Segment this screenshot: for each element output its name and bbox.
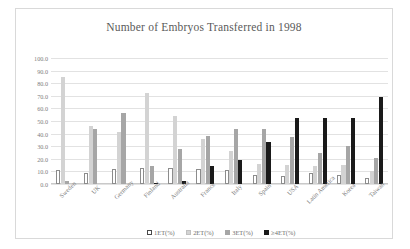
bar-group (248, 58, 276, 184)
bar[interactable] (225, 170, 229, 184)
bar[interactable] (173, 116, 177, 184)
bar[interactable] (229, 151, 233, 184)
bar[interactable] (117, 132, 121, 184)
bar-group (360, 58, 388, 184)
bar[interactable] (323, 118, 327, 184)
legend-swatch (225, 230, 230, 235)
bar-groups (51, 58, 388, 184)
x-label-cell: Sweden (51, 185, 79, 229)
y-axis-tick-label: 10.0 (37, 168, 48, 175)
x-label-cell: UK (79, 185, 107, 229)
bar[interactable] (295, 118, 299, 184)
y-axis-tick-label: 100.0 (34, 55, 48, 62)
bar[interactable] (168, 168, 172, 184)
bar[interactable] (309, 173, 313, 184)
bar[interactable] (266, 142, 270, 184)
chart-legend: 1ET(%)2ET(%)3ET(%)≥4ET(%) (16, 229, 410, 236)
bar-group (304, 58, 332, 184)
bar-group (332, 58, 360, 184)
bar[interactable] (253, 175, 257, 184)
x-label-cell: Italy (219, 185, 247, 229)
x-label-cell: Taiwan (360, 185, 388, 229)
legend-item[interactable]: 1ET(%) (147, 229, 175, 236)
bar[interactable] (93, 129, 97, 184)
legend-item[interactable]: ≥4ET(%) (264, 229, 296, 236)
legend-item[interactable]: 2ET(%) (186, 229, 214, 236)
bar[interactable] (56, 170, 60, 184)
bar-group (51, 58, 79, 184)
x-label-cell: Australia (163, 185, 191, 229)
legend-item[interactable]: 3ET(%) (225, 229, 253, 236)
y-axis-tick-label: 40.0 (37, 130, 48, 137)
x-label-cell: Korea (332, 185, 360, 229)
bar-group (135, 58, 163, 184)
y-axis-tick-label: 90.0 (37, 67, 48, 74)
bar[interactable] (140, 168, 144, 184)
y-axis-tick-label: 60.0 (37, 105, 48, 112)
bar[interactable] (89, 126, 93, 184)
bar[interactable] (337, 175, 341, 184)
bar[interactable] (145, 93, 149, 184)
legend-swatch (147, 230, 152, 235)
bar[interactable] (121, 113, 125, 184)
bar-group (163, 58, 191, 184)
bar[interactable] (285, 165, 289, 184)
bar-group (191, 58, 219, 184)
bar[interactable] (61, 77, 65, 184)
x-label-cell: France (191, 185, 219, 229)
bar[interactable] (313, 166, 317, 184)
bar[interactable] (178, 149, 182, 184)
bar[interactable] (351, 118, 355, 184)
legend-label: 3ET(%) (232, 229, 253, 236)
bar[interactable] (374, 158, 378, 184)
bar-group (276, 58, 304, 184)
bar[interactable] (206, 136, 210, 184)
bar[interactable] (318, 153, 322, 185)
x-axis-label: USA (285, 182, 299, 196)
bar[interactable] (257, 164, 261, 184)
y-axis-tick-label: 50.0 (37, 118, 48, 125)
bar[interactable] (346, 146, 350, 184)
chart-title: Number of Embryos Transferred in 1998 (16, 21, 392, 33)
legend-label: 2ET(%) (193, 229, 214, 236)
bar[interactable] (234, 129, 238, 184)
y-axis-tick-label: 70.0 (37, 92, 48, 99)
bar-group (107, 58, 135, 184)
bar[interactable] (262, 129, 266, 184)
y-axis-tick-label: 80.0 (37, 80, 48, 87)
x-label-cell: USA (276, 185, 304, 229)
x-axis-label: Italy (229, 183, 242, 196)
y-axis-tick-label: 20.0 (37, 155, 48, 162)
bar[interactable] (84, 173, 88, 184)
y-axis-tick-label: 0.0 (40, 181, 48, 188)
legend-label: 1ET(%) (154, 229, 175, 236)
bar[interactable] (341, 165, 345, 184)
bar[interactable] (112, 169, 116, 184)
bar-group (219, 58, 247, 184)
x-label-cell: Latin America (304, 185, 332, 229)
bar[interactable] (365, 178, 369, 184)
chart-frame: Number of Embryos Transferred in 1998 0.… (15, 8, 393, 239)
x-label-cell: Spain (248, 185, 276, 229)
y-axis-tick-label: 30.0 (37, 143, 48, 150)
x-label-cell: Finland (135, 185, 163, 229)
bar[interactable] (196, 169, 200, 184)
x-axis-label: Spain (256, 182, 271, 197)
bar[interactable] (370, 171, 374, 184)
legend-swatch (186, 230, 191, 235)
bar[interactable] (281, 176, 285, 184)
bar[interactable] (379, 97, 383, 184)
bar-group (79, 58, 107, 184)
bar[interactable] (238, 160, 242, 184)
bar[interactable] (290, 137, 294, 184)
x-axis-label: UK (90, 184, 101, 195)
plot-region: 0.010.020.030.040.050.060.070.080.090.01… (51, 50, 388, 184)
x-label-cell: Germany (107, 185, 135, 229)
legend-label: ≥4ET(%) (271, 229, 295, 236)
bar[interactable] (201, 139, 205, 184)
legend-swatch (264, 230, 269, 235)
x-axis-labels: SwedenUKGermanyFinlandAustraliaFranceIta… (51, 185, 388, 229)
